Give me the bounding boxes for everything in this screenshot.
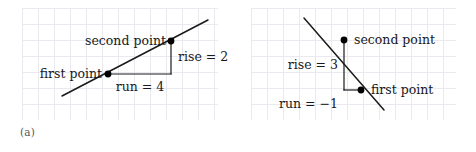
first-point-marker: [105, 71, 112, 78]
rise-label: rise = 2: [178, 51, 228, 64]
first-point-label: first point: [40, 68, 102, 81]
run-label: run = 4: [116, 81, 164, 94]
grid-a: [22, 8, 218, 121]
rise-label: rise = 3: [288, 59, 338, 72]
panel-b-diagram: [238, 0, 476, 152]
panel-a-diagram: [0, 0, 238, 152]
panel-a: first point second point run = 4 rise = …: [0, 0, 238, 152]
second-point-marker: [168, 38, 175, 45]
second-point-label: second point: [354, 34, 435, 47]
panel-b: second point first point run = −1 rise =…: [238, 0, 476, 152]
first-point-label: first point: [371, 84, 433, 97]
run-label: run = −1: [279, 98, 338, 111]
second-point-marker: [341, 37, 348, 44]
slope-illustration-figure: first point second point run = 4 rise = …: [0, 0, 476, 152]
first-point-marker: [358, 87, 365, 94]
panel-a-caption: (a): [20, 126, 35, 138]
second-point-label: second point: [85, 35, 166, 48]
